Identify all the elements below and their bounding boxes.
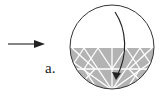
incoming-arrow-icon	[8, 40, 45, 48]
diagram-canvas	[0, 0, 164, 97]
shaded-mesh-region	[60, 48, 164, 97]
figure-label: a.	[45, 60, 55, 77]
